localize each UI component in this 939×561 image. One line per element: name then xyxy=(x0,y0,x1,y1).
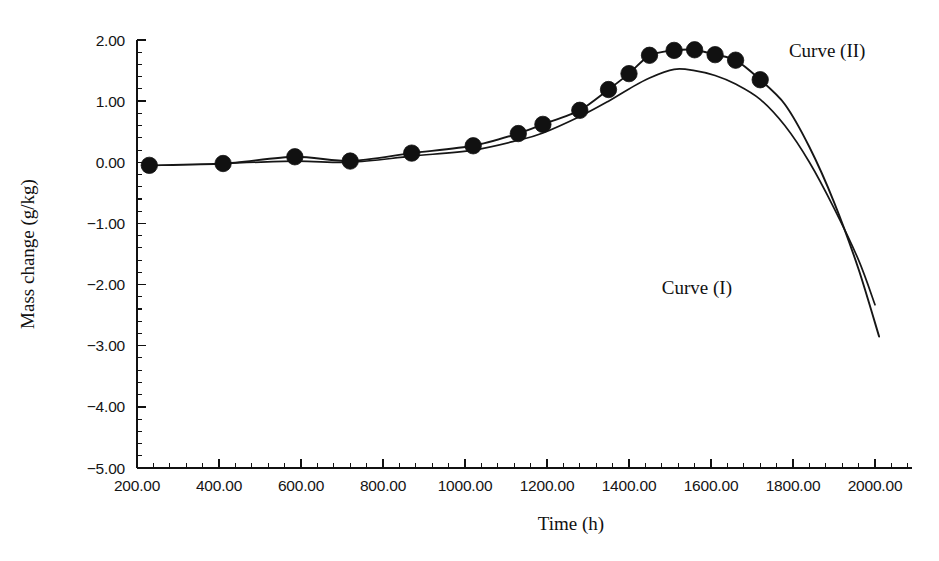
x-tick-label: 600.00 xyxy=(278,477,325,494)
x-tick-label: 1600.00 xyxy=(684,477,739,494)
axis-group xyxy=(137,40,912,468)
x-tick-label: 200.00 xyxy=(114,477,161,494)
data-point-marker xyxy=(600,81,616,97)
data-point-marker xyxy=(215,155,231,171)
mass-change-vs-time-chart: 2.001.000.00−1.00−2.00−3.00−4.00−5.00 20… xyxy=(0,0,939,561)
x-tick-label: 400.00 xyxy=(196,477,243,494)
data-series-group xyxy=(149,50,879,337)
y-tick-label: 0.00 xyxy=(96,154,126,171)
x-axis-tick-labels: 200.00400.00600.00800.001000.001200.0014… xyxy=(114,477,903,494)
chart-container: 2.001.000.00−1.00−2.00−3.00−4.00−5.00 20… xyxy=(0,0,939,561)
data-point-marker xyxy=(342,153,358,169)
data-point-marker xyxy=(465,138,481,154)
data-point-marker xyxy=(686,42,702,58)
y-axis-ticks xyxy=(137,40,146,468)
x-axis-ticks xyxy=(137,459,908,468)
y-tick-label: −5.00 xyxy=(87,460,126,477)
y-tick-label: −2.00 xyxy=(87,276,126,293)
y-tick-label: −4.00 xyxy=(87,398,126,415)
x-tick-label: 1000.00 xyxy=(438,477,493,494)
y-axis-title: Mass change (g/kg) xyxy=(17,179,39,329)
series-label-2: Curve (II) xyxy=(789,40,866,62)
data-point-marker xyxy=(641,47,657,63)
y-tick-label: 2.00 xyxy=(96,32,126,49)
data-point-marker xyxy=(621,65,637,81)
y-axis-tick-labels: 2.001.000.00−1.00−2.00−3.00−4.00−5.00 xyxy=(87,32,126,477)
data-point-marker xyxy=(287,149,303,165)
y-tick-label: −1.00 xyxy=(87,215,126,232)
x-tick-label: 1800.00 xyxy=(766,477,821,494)
data-point-marker xyxy=(727,52,743,68)
data-point-marker xyxy=(666,42,682,58)
series-path-1 xyxy=(223,69,875,305)
data-point-marker xyxy=(535,116,551,132)
data-point-marker xyxy=(707,46,723,62)
x-tick-label: 1400.00 xyxy=(602,477,657,494)
data-point-marker xyxy=(752,72,768,88)
data-markers-group xyxy=(141,42,768,174)
x-tick-label: 2000.00 xyxy=(848,477,903,494)
data-point-marker xyxy=(572,102,588,118)
x-tick-label: 800.00 xyxy=(360,477,407,494)
y-tick-label: 1.00 xyxy=(96,93,126,110)
data-point-marker xyxy=(141,157,157,173)
data-point-marker xyxy=(404,145,420,161)
y-tick-label: −3.00 xyxy=(87,337,126,354)
x-axis-title: Time (h) xyxy=(538,513,604,535)
series-path-2 xyxy=(149,50,879,337)
series-label-1: Curve (I) xyxy=(662,277,732,299)
data-point-marker xyxy=(510,125,526,141)
x-tick-label: 1200.00 xyxy=(520,477,575,494)
